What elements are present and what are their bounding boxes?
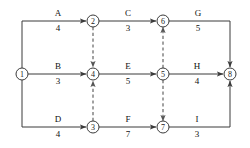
activity-label-I-name: I: [196, 114, 199, 124]
activity-label-D-duration: 4: [56, 129, 61, 139]
node-1[interactable]: 1: [16, 68, 28, 80]
node-8-label: 8: [228, 70, 232, 79]
node-5-label: 5: [161, 70, 165, 79]
activity-label-E-name: E: [125, 61, 131, 71]
node-7-label: 7: [161, 123, 165, 132]
activity-label-H-duration: 4: [195, 76, 200, 86]
node-8[interactable]: 8: [224, 68, 236, 80]
activity-label-G-duration: 5: [196, 23, 201, 33]
activity-label-F-name: F: [125, 114, 130, 124]
activity-label-F-duration: 7: [126, 129, 131, 139]
activity-label-A-name: A: [55, 8, 62, 18]
node-3[interactable]: 3: [87, 121, 99, 133]
activity-label-C-duration: 3: [126, 23, 131, 33]
activity-label-B-duration: 3: [56, 76, 61, 86]
node-3-label: 3: [91, 123, 95, 132]
activity-label-G-name: G: [195, 8, 202, 18]
activity-label-E-duration: 5: [126, 76, 131, 86]
activity-label-D-name: D: [55, 114, 62, 124]
activity-label-C-name: C: [125, 8, 131, 18]
activity-label-A-duration: 4: [56, 23, 61, 33]
node-4-label: 4: [91, 70, 95, 79]
activity-label-H-name: H: [194, 61, 201, 71]
node-2[interactable]: 2: [87, 15, 99, 27]
node-6[interactable]: 6: [157, 15, 169, 27]
activity-label-I-duration: 3: [195, 129, 200, 139]
node-2-label: 2: [91, 17, 95, 26]
node-1-label: 1: [20, 70, 24, 79]
node-5[interactable]: 5: [157, 68, 169, 80]
network-diagram: A 4 C 3 G 5 B 3 E 5 H 4 D 4 F 7 I 3 1 2 …: [0, 0, 250, 148]
node-4[interactable]: 4: [87, 68, 99, 80]
node-6-label: 6: [161, 17, 165, 26]
edge-activity-I: [169, 81, 230, 127]
node-7[interactable]: 7: [157, 121, 169, 133]
network-diagram-canvas: A 4 C 3 G 5 B 3 E 5 H 4 D 4 F 7 I 3 1 2 …: [0, 0, 250, 148]
activity-label-B-name: B: [55, 61, 61, 71]
edge-activity-I-line: [169, 81, 230, 127]
